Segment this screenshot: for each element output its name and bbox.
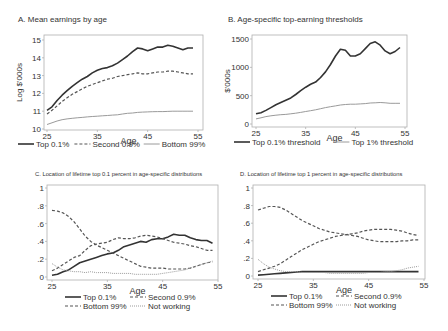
y-tick-label: 13 — [32, 72, 41, 81]
y-tick-label: .2 — [37, 255, 44, 264]
legend-label: Not working — [148, 302, 190, 311]
legend-label: Bottom 99% — [289, 301, 333, 310]
x-tick-label: 55 — [214, 282, 223, 291]
legend-label: Not working — [354, 301, 396, 310]
series-line — [47, 45, 193, 110]
legend-label: Top 0.1% — [289, 292, 322, 301]
x-tick-label: 45 — [351, 129, 360, 138]
y-tick-label: 500 — [236, 92, 250, 101]
y-tick-label: .8 — [37, 202, 44, 211]
series-line — [52, 210, 213, 269]
panel-c: 0.2.4.6.8125354555AgeTop 0.1%Second 0.9%… — [37, 184, 223, 311]
y-tick-label: 0 — [40, 273, 45, 282]
y-tick-label: 15 — [32, 36, 41, 45]
legend: Top 0.1%Second 0.9%Bottom 99% — [18, 140, 205, 149]
panel-b: 05001000150025354555Age$'000sTop 0.1% th… — [223, 35, 413, 147]
x-tick-label: 45 — [143, 132, 152, 141]
y-tick-label: 10 — [32, 125, 41, 134]
x-axis-label: Age — [336, 285, 352, 295]
y-tick-label: .2 — [243, 254, 250, 263]
legend-label: Second 0.9% — [148, 293, 196, 302]
y-tick-label: .4 — [243, 237, 250, 246]
x-tick-label: 35 — [103, 282, 112, 291]
x-tick-label: 45 — [364, 281, 373, 290]
charts-canvas: 10111213141525354555AgeLog $'000sTop 0.1… — [0, 0, 448, 331]
legend-label: Top 0.1% — [36, 140, 69, 149]
x-tick-label: 45 — [158, 282, 167, 291]
legend-label: Top 1% threshold — [351, 138, 413, 147]
legend-label: Top 0.1% threshold — [252, 138, 321, 147]
y-tick-label: 0 — [245, 120, 250, 129]
x-tick-label: 25 — [254, 281, 263, 290]
y-tick-label: .6 — [243, 219, 250, 228]
y-tick-label: 14 — [32, 54, 41, 63]
legend-label: Top 0.1% — [83, 293, 116, 302]
legend-label: Second 0.9% — [92, 140, 140, 149]
y-tick-label: 1 — [40, 184, 45, 193]
series-line — [258, 229, 419, 271]
y-tick-label: 11 — [33, 107, 42, 116]
legend: Top 0.1% thresholdTop 1% threshold — [234, 138, 413, 147]
y-axis-label: Log $'000s — [15, 63, 24, 102]
series-line — [256, 103, 400, 119]
panel-d: 0.2.4.6.8125354555AgeTop 0.1%Second 0.9%… — [243, 184, 429, 310]
series-line — [258, 207, 419, 242]
y-tick-label: .6 — [37, 220, 44, 229]
x-tick-label: 25 — [48, 282, 57, 291]
y-tick-label: .4 — [37, 237, 44, 246]
series-line — [52, 234, 213, 275]
x-tick-label: 35 — [309, 281, 318, 290]
series-line — [258, 272, 419, 276]
plot-frame — [47, 185, 218, 280]
legend-label: Bottom 99% — [162, 140, 206, 149]
series-line — [47, 71, 193, 114]
legend-label: Bottom 99% — [83, 302, 127, 311]
y-tick-label: .8 — [243, 202, 250, 211]
y-axis-label: $'000s — [223, 69, 232, 92]
legend-label: Second 0.9% — [354, 292, 402, 301]
y-tick-label: 1 — [246, 184, 251, 193]
x-axis-label: Age — [129, 286, 145, 296]
y-tick-label: 1500 — [231, 35, 249, 44]
y-tick-label: 12 — [32, 89, 41, 98]
x-tick-label: 55 — [401, 129, 410, 138]
y-tick-label: 1000 — [231, 63, 249, 72]
series-line — [47, 111, 193, 124]
panel-a: 10111213141525354555AgeLog $'000sTop 0.1… — [15, 35, 205, 149]
y-tick-label: 0 — [246, 272, 251, 281]
x-tick-label: 35 — [301, 129, 310, 138]
x-tick-label: 25 — [252, 129, 261, 138]
x-tick-label: 55 — [420, 281, 429, 290]
series-line — [52, 261, 213, 274]
